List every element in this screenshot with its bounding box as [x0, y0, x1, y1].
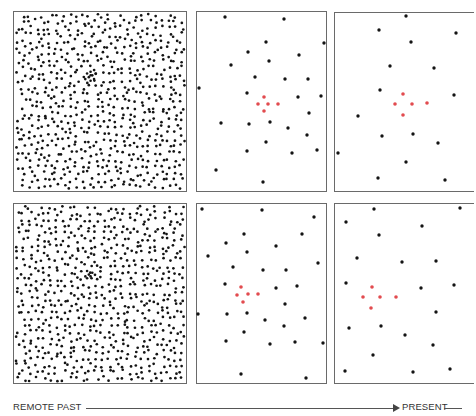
galaxy-dot — [20, 137, 23, 140]
galaxy-dot — [119, 256, 122, 259]
galaxy-dot — [154, 376, 157, 379]
galaxy-dot — [101, 31, 104, 34]
galaxy-dot — [110, 185, 113, 188]
cluster-galaxy-dot — [370, 285, 374, 289]
galaxy-dot — [48, 64, 51, 67]
galaxy-dot — [99, 265, 102, 268]
galaxy-dot — [161, 53, 164, 56]
galaxy-dot — [114, 251, 117, 254]
galaxy-dot — [169, 80, 172, 83]
galaxy-dot — [29, 67, 32, 70]
galaxy-dot — [286, 126, 289, 129]
galaxy-dot — [42, 251, 45, 254]
galaxy-dot — [175, 339, 178, 342]
galaxy-dot — [178, 272, 181, 275]
galaxy-dot — [109, 277, 112, 280]
galaxy-dot — [60, 344, 63, 347]
galaxy-dot — [163, 211, 166, 214]
galaxy-dot — [347, 326, 350, 329]
galaxy-dot — [141, 165, 144, 168]
galaxy-dot — [102, 120, 105, 123]
galaxy-dot — [103, 28, 106, 31]
galaxy-dot — [48, 265, 51, 268]
galaxy-dot — [119, 14, 122, 17]
galaxy-dot — [159, 46, 162, 49]
galaxy-dot — [67, 60, 70, 63]
galaxy-dot — [99, 331, 102, 334]
galaxy-dot — [136, 375, 139, 378]
galaxy-dot — [149, 379, 152, 382]
galaxy-dot — [53, 366, 56, 369]
galaxy-dot — [108, 97, 111, 100]
galaxy-dot — [133, 59, 136, 62]
galaxy-dot — [152, 59, 155, 62]
cluster-galaxy-dot — [87, 75, 90, 78]
galaxy-dot — [48, 243, 51, 246]
galaxy-dot — [41, 73, 44, 76]
galaxy-dot — [108, 27, 111, 30]
galaxy-dot — [34, 375, 37, 378]
galaxy-dot — [56, 279, 59, 282]
galaxy-dot — [179, 172, 182, 175]
galaxy-dot — [79, 148, 82, 151]
galaxy-dot — [100, 285, 103, 288]
galaxy-dot — [76, 297, 79, 300]
galaxy-dot — [95, 277, 98, 280]
galaxy-dot — [107, 103, 110, 106]
galaxy-dot — [79, 306, 82, 309]
galaxy-dot — [61, 104, 64, 107]
galaxy-dot — [174, 77, 177, 80]
galaxy-dot — [134, 19, 137, 22]
galaxy-dot — [31, 90, 34, 93]
galaxy-dot — [112, 346, 115, 349]
galaxy-dot — [46, 254, 49, 257]
galaxy-dot — [51, 117, 54, 120]
galaxy-dot — [49, 316, 52, 319]
galaxy-dot — [100, 152, 103, 155]
galaxy-dot — [113, 125, 116, 128]
galaxy-dot — [87, 296, 90, 299]
galaxy-dot — [152, 300, 155, 303]
galaxy-dot — [174, 302, 177, 305]
galaxy-dot — [93, 304, 96, 307]
galaxy-dot — [56, 32, 59, 35]
galaxy-dot — [87, 161, 90, 164]
galaxy-dot — [54, 101, 57, 104]
galaxy-dot — [176, 123, 179, 126]
galaxy-dot — [100, 185, 103, 188]
galaxy-dot — [126, 310, 129, 313]
galaxy-dot — [242, 330, 245, 333]
galaxy-dot — [77, 80, 80, 83]
galaxy-dot — [122, 113, 125, 116]
galaxy-dot — [181, 276, 184, 279]
galaxy-dot — [147, 218, 150, 221]
galaxy-dot — [121, 244, 124, 247]
galaxy-dot — [46, 28, 49, 31]
galaxy-dot — [128, 67, 131, 70]
galaxy-dot — [34, 217, 37, 220]
galaxy-dot — [96, 59, 99, 62]
galaxy-dot — [141, 59, 144, 62]
galaxy-dot — [87, 126, 90, 129]
galaxy-dot — [119, 161, 122, 164]
galaxy-dot — [59, 153, 62, 156]
galaxy-dot — [141, 331, 144, 334]
galaxy-dot — [223, 15, 226, 18]
cluster-galaxy-dot — [369, 306, 373, 310]
galaxy-dot — [141, 345, 144, 348]
galaxy-dot — [54, 13, 57, 16]
galaxy-dot — [343, 369, 346, 372]
galaxy-dot — [172, 266, 175, 269]
galaxy-dot — [146, 144, 149, 147]
galaxy-dot — [54, 226, 57, 229]
galaxy-dot — [155, 352, 158, 355]
galaxy-dot — [134, 41, 137, 44]
galaxy-dot — [28, 130, 31, 133]
galaxy-dot — [63, 324, 66, 327]
galaxy-dot — [160, 134, 163, 137]
galaxy-dot — [101, 166, 104, 169]
panel-bottom-intermediate — [196, 203, 327, 384]
galaxy-dot — [123, 144, 126, 147]
galaxy-dot — [103, 249, 106, 252]
galaxy-dot — [173, 105, 176, 108]
